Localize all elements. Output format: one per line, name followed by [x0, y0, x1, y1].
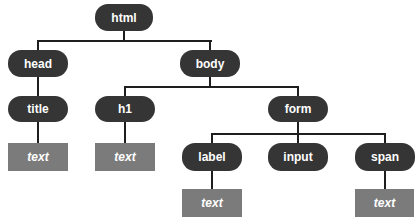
- connector-title-text: [37, 121, 39, 144]
- connector-span-text: [384, 170, 386, 190]
- node-form: form: [268, 96, 328, 122]
- node-input: input: [268, 143, 328, 171]
- node-label: label: [182, 143, 242, 171]
- connector-label-text: [211, 170, 213, 190]
- node-span-text: text: [355, 189, 414, 217]
- connector-html-children: [37, 40, 212, 42]
- connector-head-title: [37, 76, 39, 97]
- node-title: title: [8, 96, 68, 122]
- node-span: span: [355, 143, 415, 171]
- dom-tree-diagram: html head body title h1 form label input…: [0, 0, 420, 222]
- connector-body-children: [124, 86, 299, 88]
- node-body: body: [180, 50, 240, 77]
- node-h1: h1: [95, 96, 155, 122]
- node-title-text: text: [8, 143, 68, 171]
- connector-h1-text: [124, 121, 126, 144]
- node-head: head: [8, 50, 68, 77]
- node-h1-text: text: [95, 143, 155, 171]
- node-html: html: [95, 4, 153, 31]
- node-label-text: text: [182, 189, 242, 217]
